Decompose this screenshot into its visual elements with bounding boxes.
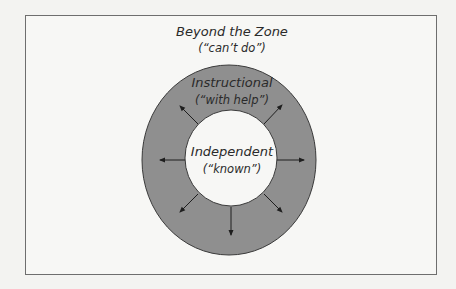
independent-label: Independent (191, 144, 273, 159)
instructional-label: Instructional (191, 75, 272, 90)
instructional-note: (“with help”) (195, 93, 269, 107)
independent-note: (“known”) (203, 162, 262, 176)
beyond-zone-note: (“can’t do”) (198, 41, 266, 55)
beyond-zone-label: Beyond the Zone (176, 24, 288, 39)
